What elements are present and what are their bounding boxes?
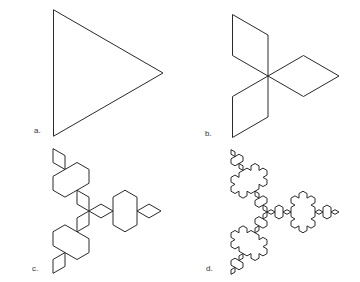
koch-curve-iteration-1 [233,15,340,138]
koch-curve-iteration-3 [231,150,339,275]
panel-c: c. [32,149,161,274]
panel-label-d: d. [206,264,213,273]
panel-b: b. [205,15,339,138]
panel-a: a. [34,10,163,136]
panel-label-c: c. [32,264,38,273]
koch-curve-iteration-0 [54,10,164,136]
koch-snowflake-figure: a. b. c. d. [0,0,360,282]
panel-label-a: a. [34,126,41,135]
panel-label-b: b. [205,129,212,138]
koch-curve-iteration-2 [53,149,161,274]
panel-d: d. [206,150,339,275]
